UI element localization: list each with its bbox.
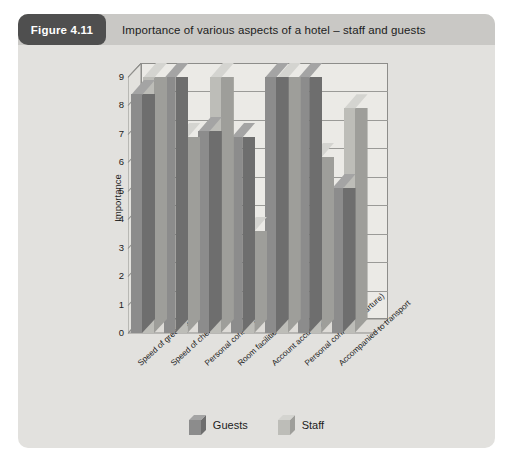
y-tick-label: 3 <box>119 243 124 253</box>
bar-face-side <box>242 137 255 333</box>
chart-legend: Guests Staff <box>18 415 495 434</box>
bar-face-side <box>187 137 200 333</box>
bar-face-side <box>209 131 222 333</box>
legend-label-guests: Guests <box>213 419 248 431</box>
y-tick-label: 6 <box>119 158 124 168</box>
y-tick-label: 9 <box>119 72 124 82</box>
bar-face-side <box>154 77 167 333</box>
x-axis-labels: Speed of greetingSpeed of check-inPerson… <box>128 357 428 452</box>
legend-item-guests: Guests <box>189 415 248 434</box>
legend-swatch-guests-icon <box>189 415 205 434</box>
bar-face-side <box>221 77 234 333</box>
bar-face-side <box>276 77 289 333</box>
bar-face-side <box>288 77 301 333</box>
bar-face-side <box>343 188 356 333</box>
bar-guests <box>131 94 142 333</box>
bar-face-side <box>142 94 155 333</box>
figure-card: Figure 4.11 Importance of various aspect… <box>18 14 495 448</box>
y-tick-label: 2 <box>119 271 124 281</box>
y-tick-label: 1 <box>119 300 124 310</box>
figure-header: Figure 4.11 Importance of various aspect… <box>18 14 495 45</box>
y-axis-title: Importance <box>112 174 123 222</box>
figure-caption: Importance of various aspects of a hotel… <box>122 14 426 45</box>
bar-face-side <box>355 108 368 333</box>
bar-face-side <box>175 77 188 333</box>
figure-number-badge: Figure 4.11 <box>18 14 106 45</box>
y-tick-label: 7 <box>119 129 124 139</box>
chart-body: 0123456789 Importance Speed of greetingS… <box>18 45 495 448</box>
y-tick-label: 8 <box>119 101 124 111</box>
bar-face-front <box>131 94 142 333</box>
bar-face-side <box>321 157 334 333</box>
y-tick-label: 0 <box>119 328 124 338</box>
legend-label-staff: Staff <box>302 419 324 431</box>
bar-face-side <box>254 231 267 333</box>
plot-area: 0123456789 Importance <box>128 63 388 333</box>
bar-face-side <box>309 77 322 333</box>
legend-item-staff: Staff <box>278 415 324 434</box>
legend-swatch-staff-icon <box>278 415 294 434</box>
